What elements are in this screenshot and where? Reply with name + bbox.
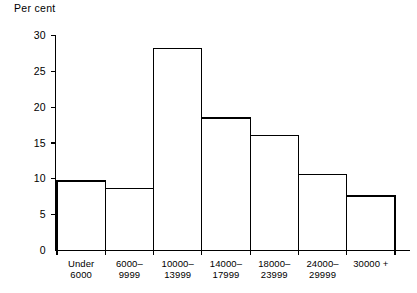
bar-1 [105, 189, 153, 251]
bar-rect-4 [250, 136, 298, 251]
bar-0 [57, 181, 105, 251]
bar-3 [202, 118, 250, 251]
bar-5 [298, 175, 346, 251]
bar-rect-3 [202, 118, 250, 251]
histogram-chart: Per cent 051015202530 Under60006000–9999… [0, 0, 417, 293]
bar-rect-6 [347, 196, 395, 250]
plot-area [0, 0, 417, 293]
bar-6 [347, 196, 395, 250]
bar-rect-5 [298, 175, 346, 251]
bar-rect-2 [154, 48, 202, 250]
bar-4 [250, 136, 298, 251]
bar-rect-1 [105, 189, 153, 251]
bar-2 [154, 48, 202, 250]
bar-rect-0 [57, 181, 105, 251]
